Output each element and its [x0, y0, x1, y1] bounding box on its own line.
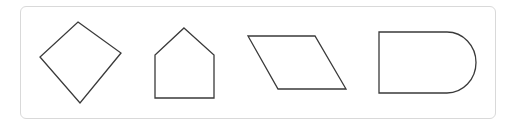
- diamond-shape: [40, 22, 121, 103]
- d-shape: [379, 32, 476, 93]
- pentagon-house-shape: [155, 28, 214, 98]
- parallelogram-shape: [248, 36, 346, 89]
- shapes-canvas: [0, 0, 519, 126]
